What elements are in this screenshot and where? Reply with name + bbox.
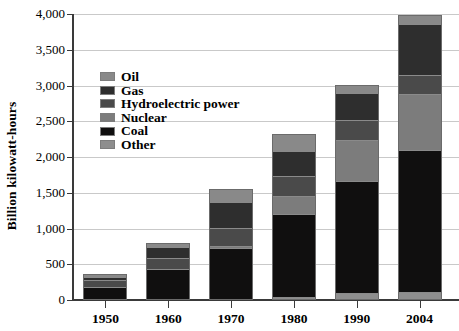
bar-segment-hydroelectric-power[interactable] — [210, 229, 252, 247]
legend-item-coal[interactable]: Coal — [100, 124, 240, 138]
bar-segment-coal[interactable] — [273, 215, 315, 298]
bar-segment-coal[interactable] — [84, 288, 126, 299]
x-tick-label-1990: 1990 — [343, 311, 370, 327]
x-tick-label-1950: 1950 — [92, 311, 119, 327]
y-tick-mark — [67, 264, 74, 265]
plot-inner: 05001,0001,5002,0002,5003,0003,5004,000 … — [74, 14, 451, 300]
x-tick-mark — [105, 300, 106, 308]
x-tick-mark — [420, 300, 421, 308]
bar-segment-coal[interactable] — [399, 151, 441, 292]
bar-segment-coal[interactable] — [336, 182, 378, 294]
bar-segment-other[interactable] — [273, 298, 315, 299]
legend-item-label: Coal — [121, 124, 148, 138]
bar-1960[interactable] — [146, 243, 190, 300]
legend-item-gas[interactable]: Gas — [100, 84, 240, 98]
y-tick-mark — [67, 300, 74, 301]
y-tick-label: 2,000 — [36, 149, 65, 165]
bar-segment-coal[interactable] — [147, 270, 189, 299]
y-tick-mark — [67, 50, 74, 51]
bar-segment-oil[interactable] — [336, 86, 378, 95]
legend-item-label: Oil — [121, 70, 139, 84]
x-tick-label-1970: 1970 — [218, 311, 245, 327]
bar-1980[interactable] — [272, 134, 316, 300]
y-tick-label: 3,000 — [36, 78, 65, 94]
x-tick-mark — [357, 300, 358, 308]
legend-item-hydroelectric-power[interactable]: Hydroelectric power — [100, 97, 240, 111]
chart-legend: OilGasHydroelectric powerNuclearCoalOthe… — [100, 70, 240, 152]
bar-segment-oil[interactable] — [273, 135, 315, 153]
bar-segment-nuclear[interactable] — [336, 141, 378, 182]
y-tick-mark — [67, 86, 74, 87]
bar-segment-nuclear[interactable] — [399, 95, 441, 151]
y-axis-title: Billion kilowatt-hours — [0, 0, 25, 331]
y-tick-label: 1,500 — [36, 185, 65, 201]
legend-item-other[interactable]: Other — [100, 138, 240, 152]
x-tick-label-1980: 1980 — [280, 311, 307, 327]
legend-swatch-icon — [100, 72, 115, 81]
legend-swatch-icon — [100, 113, 115, 122]
y-tick-label: 1,000 — [36, 221, 65, 237]
bar-1970[interactable] — [209, 189, 253, 300]
legend-item-label: Nuclear — [121, 111, 167, 125]
legend-swatch-icon — [100, 99, 115, 108]
legend-item-nuclear[interactable]: Nuclear — [100, 111, 240, 125]
legend-item-oil[interactable]: Oil — [100, 70, 240, 84]
y-tick-label: 0 — [59, 292, 66, 308]
plot-area: 05001,0001,5002,0002,5003,0003,5004,000 … — [72, 14, 451, 300]
bar-segment-gas[interactable] — [336, 94, 378, 120]
bar-segment-hydroelectric-power[interactable] — [336, 121, 378, 142]
legend-item-label: Hydroelectric power — [121, 97, 240, 111]
bar-segment-hydroelectric-power[interactable] — [84, 281, 126, 288]
y-tick-mark — [67, 157, 74, 158]
bar-segment-oil[interactable] — [210, 190, 252, 203]
bar-segment-gas[interactable] — [273, 152, 315, 177]
bar-segment-hydroelectric-power[interactable] — [273, 177, 315, 197]
bar-segment-nuclear[interactable] — [273, 197, 315, 215]
bar-segment-other[interactable] — [336, 294, 378, 299]
y-tick-mark — [67, 121, 74, 122]
y-tick-label: 3,500 — [36, 42, 65, 58]
bar-1950[interactable] — [83, 274, 127, 300]
bar-segment-hydroelectric-power[interactable] — [147, 259, 189, 270]
chart-container: Billion kilowatt-hours 05001,0001,5002,0… — [0, 0, 459, 331]
bar-2004[interactable] — [398, 15, 442, 300]
bars-group — [74, 14, 451, 300]
y-tick-mark — [67, 14, 74, 15]
x-tick-label-1960: 1960 — [155, 311, 182, 327]
bar-segment-other[interactable] — [399, 293, 441, 299]
y-axis-title-text: Billion kilowatt-hours — [4, 101, 20, 230]
bar-1990[interactable] — [335, 85, 379, 300]
y-tick-mark — [67, 229, 74, 230]
bar-segment-gas[interactable] — [210, 203, 252, 229]
x-tick-mark — [231, 300, 232, 308]
x-tick-mark — [294, 300, 295, 308]
bar-segment-hydroelectric-power[interactable] — [399, 76, 441, 95]
legend-swatch-icon — [100, 127, 115, 136]
x-tick-label-2004: 2004 — [406, 311, 433, 327]
y-tick-label: 2,500 — [36, 113, 65, 129]
bar-segment-gas[interactable] — [147, 248, 189, 259]
y-tick-mark — [67, 193, 74, 194]
bar-segment-coal[interactable] — [210, 249, 252, 299]
legend-swatch-icon — [100, 140, 115, 149]
y-tick-label: 4,000 — [36, 6, 65, 22]
legend-item-label: Other — [121, 138, 156, 152]
bar-segment-gas[interactable] — [399, 25, 441, 76]
legend-swatch-icon — [100, 86, 115, 95]
bar-segment-oil[interactable] — [399, 16, 441, 25]
x-tick-mark — [168, 300, 169, 308]
y-tick-label: 500 — [46, 256, 66, 272]
legend-item-label: Gas — [121, 84, 144, 98]
